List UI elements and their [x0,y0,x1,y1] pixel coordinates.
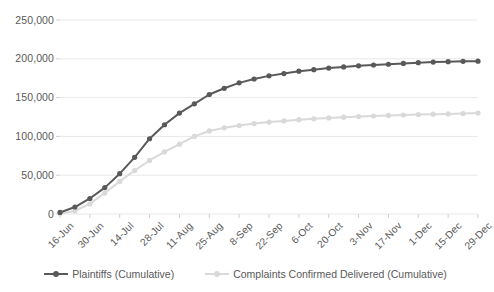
data-point-marker [237,80,242,85]
data-point-marker [446,111,451,116]
data-point-marker [132,155,137,160]
data-point-marker [237,123,242,128]
data-point-marker [401,61,406,66]
data-point-marker [281,118,286,123]
data-point-marker [460,111,465,116]
data-point-marker [431,59,436,64]
data-point-marker [207,128,212,133]
data-point-marker [326,115,331,120]
data-point-marker [102,185,107,190]
y-axis-tick-label: 100,000 [0,131,54,142]
data-point-marker [296,69,301,74]
data-point-marker [87,196,92,201]
data-point-marker [356,114,361,119]
chart-legend: Plaintiffs (Cumulative)Complaints Confir… [0,264,490,284]
data-point-marker [117,171,122,176]
data-point-marker [416,60,421,65]
data-point-marker [311,116,316,121]
data-point-marker [162,122,167,127]
data-point-marker [311,67,316,72]
data-point-marker [371,113,376,118]
data-point-marker [192,101,197,106]
y-axis-tick-label: 50,000 [0,170,54,181]
data-point-marker [132,168,137,173]
data-point-marker [326,66,331,71]
data-point-marker [192,134,197,139]
data-point-marker [117,179,122,184]
y-axis-tick-label: 250,000 [0,15,54,26]
data-point-marker [356,63,361,68]
data-point-marker [446,59,451,64]
series-line [60,113,478,213]
data-point-marker [281,71,286,76]
data-point-marker [475,59,480,64]
data-point-marker [147,136,152,141]
data-point-marker [162,149,167,154]
legend-marker-icon [204,269,230,279]
data-point-marker [72,204,77,209]
y-axis-tick-label: 0 [0,209,54,220]
legend-item[interactable]: Plaintiffs (Cumulative) [43,268,174,280]
legend-label: Complaints Confirmed Delivered (Cumulati… [233,268,447,280]
data-point-marker [416,112,421,117]
data-point-marker [341,115,346,120]
data-point-marker [222,86,227,91]
data-point-marker [341,64,346,69]
data-point-marker [147,158,152,163]
data-point-marker [371,62,376,67]
data-point-marker [460,59,465,64]
data-point-marker [266,73,271,78]
data-point-marker [386,113,391,118]
y-axis-tick-label: 150,000 [0,92,54,103]
data-point-marker [207,92,212,97]
data-point-marker [57,210,62,215]
data-point-marker [251,121,256,126]
data-point-marker [431,112,436,117]
data-point-marker [222,125,227,130]
data-point-marker [386,62,391,67]
data-point-marker [177,111,182,116]
legend-label: Plaintiffs (Cumulative) [72,268,174,280]
data-point-marker [177,142,182,147]
legend-marker-icon [43,269,69,279]
y-axis-tick-label: 200,000 [0,53,54,64]
data-point-marker [296,117,301,122]
legend-item[interactable]: Complaints Confirmed Delivered (Cumulati… [204,268,447,280]
data-point-marker [475,111,480,116]
data-point-marker [87,201,92,206]
data-point-marker [251,76,256,81]
data-point-marker [266,119,271,124]
data-point-marker [401,112,406,117]
data-point-marker [102,190,107,195]
